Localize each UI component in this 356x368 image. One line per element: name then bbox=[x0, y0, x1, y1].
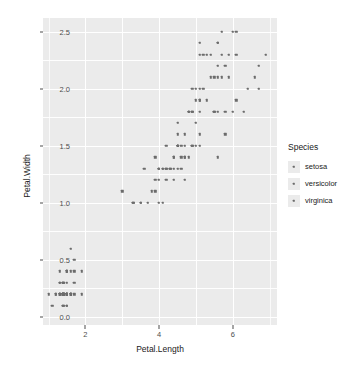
legend-key-swatch bbox=[288, 178, 300, 190]
data-point bbox=[154, 179, 156, 181]
y-tick-label: 2.0 bbox=[60, 84, 70, 93]
data-point bbox=[73, 270, 75, 272]
legend-key-swatch bbox=[288, 161, 300, 173]
data-point bbox=[235, 99, 237, 101]
data-point bbox=[176, 167, 178, 169]
data-point bbox=[55, 293, 57, 295]
data-point bbox=[254, 76, 256, 78]
data-point bbox=[217, 42, 219, 44]
legend-item-label: virginica bbox=[305, 196, 333, 205]
data-point bbox=[154, 190, 156, 192]
data-point bbox=[184, 179, 186, 181]
data-point bbox=[217, 110, 219, 112]
data-point bbox=[176, 133, 178, 135]
data-point bbox=[80, 293, 82, 295]
data-point bbox=[187, 156, 189, 158]
x-axis-title: Petal.Length bbox=[43, 344, 277, 354]
data-point bbox=[187, 110, 189, 112]
x-tick-label: 6 bbox=[231, 330, 235, 339]
y-tick-label: 2.5 bbox=[60, 27, 70, 36]
data-point bbox=[221, 76, 223, 78]
y-tick-mark bbox=[40, 317, 44, 318]
x-tick-label: 2 bbox=[83, 330, 87, 339]
legend-key-swatch bbox=[288, 195, 300, 207]
data-point bbox=[213, 110, 215, 112]
data-point bbox=[58, 293, 60, 295]
data-point bbox=[62, 282, 64, 284]
legend-item-versicolor[interactable]: versicolor bbox=[288, 176, 354, 191]
data-point bbox=[198, 110, 200, 112]
data-point bbox=[191, 110, 193, 112]
data-point bbox=[180, 156, 182, 158]
gridline-major-v bbox=[233, 18, 234, 325]
y-tick-mark bbox=[40, 31, 44, 32]
data-point bbox=[198, 99, 200, 101]
data-point bbox=[176, 122, 178, 124]
data-point bbox=[206, 99, 208, 101]
legend-item-setosa[interactable]: setosa bbox=[288, 159, 354, 174]
gridline-minor-v bbox=[49, 18, 50, 325]
data-point bbox=[58, 282, 60, 284]
legend-item-label: versicolor bbox=[305, 179, 337, 188]
legend-key-point bbox=[293, 199, 295, 201]
y-tick-label: 0.0 bbox=[60, 313, 70, 322]
y-tick-label: 1.5 bbox=[60, 141, 70, 150]
plot-panel bbox=[43, 18, 277, 325]
data-point bbox=[58, 270, 60, 272]
data-point bbox=[66, 304, 68, 306]
x-tick-mark bbox=[159, 325, 160, 329]
data-point bbox=[206, 53, 208, 55]
data-point bbox=[202, 53, 204, 55]
gridline-minor-v bbox=[196, 18, 197, 325]
data-point bbox=[173, 179, 175, 181]
gridline-major-v bbox=[85, 18, 86, 325]
data-point bbox=[173, 156, 175, 158]
data-point bbox=[162, 167, 164, 169]
data-point bbox=[217, 76, 219, 78]
data-point bbox=[165, 167, 167, 169]
data-point bbox=[243, 110, 245, 112]
legend: Species setosaversicolorvirginica bbox=[288, 142, 354, 210]
x-tick-label: 4 bbox=[157, 330, 161, 339]
gridline-minor-v bbox=[270, 18, 271, 325]
legend-items: setosaversicolorvirginica bbox=[288, 159, 354, 208]
x-tick-mark bbox=[232, 325, 233, 329]
y-tick-mark bbox=[40, 259, 44, 260]
data-point bbox=[66, 270, 68, 272]
data-point bbox=[257, 65, 259, 67]
data-point bbox=[169, 167, 171, 169]
gridline-major-v bbox=[159, 18, 160, 325]
y-tick-label: 0.5 bbox=[60, 255, 70, 264]
data-point bbox=[51, 304, 53, 306]
data-point bbox=[228, 53, 230, 55]
data-point bbox=[184, 133, 186, 135]
data-point bbox=[224, 110, 226, 112]
data-point bbox=[217, 65, 219, 67]
legend-item-virginica[interactable]: virginica bbox=[288, 193, 354, 208]
data-point bbox=[180, 167, 182, 169]
y-tick-mark bbox=[40, 145, 44, 146]
y-axis-title: Petal.Width bbox=[22, 96, 32, 256]
data-point bbox=[224, 133, 226, 135]
data-point bbox=[66, 293, 68, 295]
legend-title: Species bbox=[288, 142, 354, 152]
legend-key-point bbox=[293, 165, 295, 167]
scatter-plot-figure: 0.00.51.01.52.02.5246 Petal.Length Petal… bbox=[0, 0, 356, 368]
data-point bbox=[265, 53, 267, 55]
data-point bbox=[80, 270, 82, 272]
data-point bbox=[66, 282, 68, 284]
data-point bbox=[213, 76, 215, 78]
legend-key-point bbox=[293, 182, 295, 184]
data-point bbox=[62, 293, 64, 295]
data-point bbox=[151, 190, 153, 192]
data-point bbox=[228, 76, 230, 78]
data-point bbox=[221, 53, 223, 55]
data-point bbox=[69, 293, 71, 295]
data-point bbox=[154, 156, 156, 158]
y-tick-label: 1.0 bbox=[60, 198, 70, 207]
data-point bbox=[209, 76, 211, 78]
data-point bbox=[198, 133, 200, 135]
data-point bbox=[69, 270, 71, 272]
data-point bbox=[209, 53, 211, 55]
data-point bbox=[217, 156, 219, 158]
